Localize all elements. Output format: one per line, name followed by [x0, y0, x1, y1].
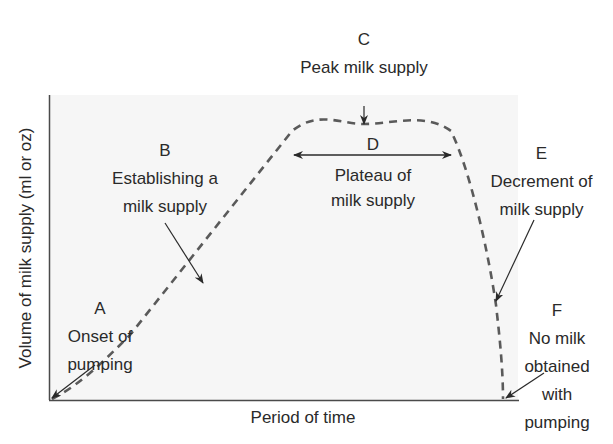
x-axis-label: Period of time — [223, 408, 383, 428]
y-axis-label: Volume of milk supply (ml or oz) — [14, 93, 38, 403]
annotation-b-line2: milk supply — [90, 193, 240, 221]
annotation-f-line2: obtained — [507, 353, 607, 381]
annotation-e: E Decrement of milk supply — [470, 140, 613, 224]
annotation-d-line1: Plateau of — [313, 162, 433, 189]
annotation-f-line1: No milk — [507, 325, 607, 353]
annotation-f-letter: F — [507, 297, 607, 325]
annotation-d-line2: milk supply — [313, 187, 433, 214]
annotation-f-line4: pumping — [507, 409, 607, 437]
annotation-f-line3: with — [507, 381, 607, 409]
annotation-a: A Onset of pumping — [50, 295, 150, 379]
arrow-b — [165, 223, 203, 283]
annotation-b-letter: B — [90, 137, 240, 165]
annotation-d: D — [313, 140, 433, 155]
annotation-c-letter: C — [284, 30, 444, 50]
annotation-d-letter: D — [313, 135, 433, 155]
annotation-e-line2: milk supply — [470, 196, 613, 224]
annotation-c: C Peak milk supply — [284, 30, 444, 78]
arrow-e — [496, 220, 534, 301]
annotation-a-line2: pumping — [50, 351, 150, 379]
annotation-f: F No milk obtained with pumping — [507, 297, 607, 437]
annotation-b: B Establishing a milk supply — [90, 137, 240, 221]
annotation-e-letter: E — [470, 140, 613, 168]
annotation-a-letter: A — [50, 295, 150, 323]
annotation-d-text: Plateau of milk supply — [313, 162, 433, 214]
annotation-c-text: Peak milk supply — [284, 58, 444, 78]
annotation-e-line1: Decrement of — [470, 168, 613, 196]
annotation-b-line1: Establishing a — [90, 165, 240, 193]
annotation-a-line1: Onset of — [50, 323, 150, 351]
